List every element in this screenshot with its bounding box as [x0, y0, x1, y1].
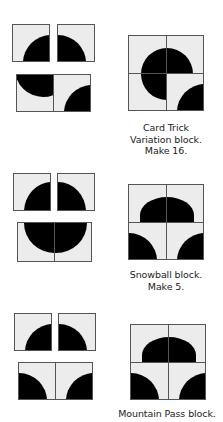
caption-line: Card Trick — [116, 122, 216, 134]
quarter-circle-shape — [25, 324, 52, 351]
block-square — [128, 35, 204, 111]
patch-square — [58, 313, 96, 351]
block-square — [128, 184, 204, 260]
caption-line: Make 16. — [116, 145, 216, 157]
quarter-circle-shape — [18, 373, 47, 400]
patch-square — [54, 222, 92, 262]
quarter-circle-shape — [58, 324, 87, 351]
block-caption: Mountain Pass block. — [111, 408, 223, 420]
quarter-circle-shape — [179, 373, 206, 400]
quarter-circle-shape — [66, 373, 93, 400]
quarter-circle-shape — [130, 373, 159, 400]
block-square — [130, 324, 206, 400]
quarter-circle-shape — [23, 35, 50, 62]
quarter-circle-shape — [54, 222, 87, 253]
patch-square — [17, 222, 54, 262]
patch-square — [57, 24, 95, 62]
quarter-circle-shape — [24, 182, 51, 211]
patch-square — [18, 362, 55, 400]
quarter-circle-shape — [57, 182, 86, 211]
patch-square — [166, 73, 204, 111]
block-caption: Card Trick Variation block. Make 16. — [116, 122, 216, 157]
quarter-circle-shape — [142, 337, 196, 363]
seam-line — [131, 362, 206, 363]
caption-line: Variation block. — [116, 134, 216, 146]
quarter-circle-shape — [57, 35, 86, 62]
quarter-circle-shape — [128, 233, 157, 260]
patch-square — [12, 24, 50, 62]
quarter-circle-shape — [16, 74, 54, 97]
quarter-circle-shape — [177, 233, 204, 260]
patch-square — [16, 74, 54, 112]
caption-line: Mountain Pass block. — [111, 408, 223, 420]
quarter-circle-shape — [177, 84, 204, 111]
patch-square — [14, 313, 52, 351]
patch-square — [55, 362, 93, 400]
seam-line — [129, 222, 204, 223]
quarter-circle-shape — [24, 222, 54, 253]
quarter-circle-shape — [140, 197, 194, 223]
caption-line: Snowball block. — [116, 269, 216, 281]
block-caption: Snowball block. Make 5. — [116, 269, 216, 292]
patch-square — [13, 173, 51, 211]
seam-line — [129, 73, 204, 74]
patch-square — [57, 173, 95, 211]
caption-line: Make 5. — [116, 281, 216, 293]
patch-square — [53, 74, 91, 112]
quarter-circle-shape — [64, 85, 91, 112]
